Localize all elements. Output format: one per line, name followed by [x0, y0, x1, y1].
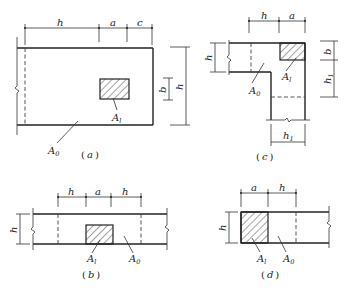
dim-label-h: h [122, 186, 128, 197]
panel-c-bottom-dimension: h1 [271, 124, 305, 146]
dim-label-a: a [289, 10, 295, 21]
bearing-area-a1 [241, 212, 268, 243]
dim-label-b: b [322, 49, 333, 55]
dim-label-a: a [251, 182, 257, 193]
panel-d-top-dimension: a h [240, 182, 297, 207]
dim-label-b: b [157, 87, 168, 93]
panel-c-right-dimension: b h1 [320, 41, 338, 97]
panel-c: h a h b h1 [203, 10, 338, 162]
panel-a-top-dimension: h a c [24, 17, 153, 45]
caption-a: (a) [81, 149, 99, 160]
panel-c-left-dimension: h [203, 43, 226, 72]
panel-d-side-dimension: h [217, 212, 238, 243]
dim-label-h-side: h [174, 84, 185, 90]
dim-label-a: a [110, 17, 116, 28]
bearing-area-a1 [100, 79, 129, 99]
leader-a0 [252, 63, 264, 83]
leader-a1 [113, 98, 117, 110]
caption-c: (c) [256, 151, 274, 162]
panel-b: h a h h Al A0 (b) [8, 186, 169, 280]
panel-b-top-dimension: h a h [57, 186, 142, 207]
dim-label-h: h [279, 182, 285, 193]
dim-label-h-side: h [8, 227, 19, 233]
label-a0: A0 [282, 253, 294, 266]
panel-d: a h h Al A0 (d) [217, 182, 331, 280]
label-a0: A0 [248, 85, 260, 98]
label-a1: Al [281, 71, 291, 84]
label-a1: Al [86, 253, 96, 266]
panel-a: h a c b h Al A0 (a) [15, 17, 190, 160]
dim-label-h-side: h [217, 225, 228, 231]
panel-c-top-dimension: h a [248, 10, 306, 33]
dim-label-h1-right: h1 [322, 73, 335, 84]
dim-label-h-left: h [203, 55, 214, 61]
caption-b: (b) [82, 269, 100, 280]
label-a1: Al [256, 253, 266, 266]
dim-label-h1-bottom: h1 [283, 130, 294, 143]
panel-b-side-dimension: h [8, 214, 30, 244]
dim-label-a: a [95, 186, 101, 197]
panel-a-side-dimensions: b h [157, 47, 190, 125]
bearing-area-a1 [280, 43, 305, 60]
leader-a0 [278, 236, 286, 252]
dim-label-h: h [68, 186, 74, 197]
dim-label-h: h [261, 10, 267, 21]
dim-label-h: h [57, 17, 63, 28]
label-a0: A0 [128, 253, 140, 266]
label-a0: A0 [47, 145, 59, 158]
label-a1: Al [111, 112, 121, 125]
local-compression-diagram: h a c b h Al A0 (a) [0, 0, 354, 297]
dim-label-c: c [137, 17, 143, 28]
panel-a-outline [15, 37, 153, 135]
caption-d: (d) [261, 269, 279, 280]
